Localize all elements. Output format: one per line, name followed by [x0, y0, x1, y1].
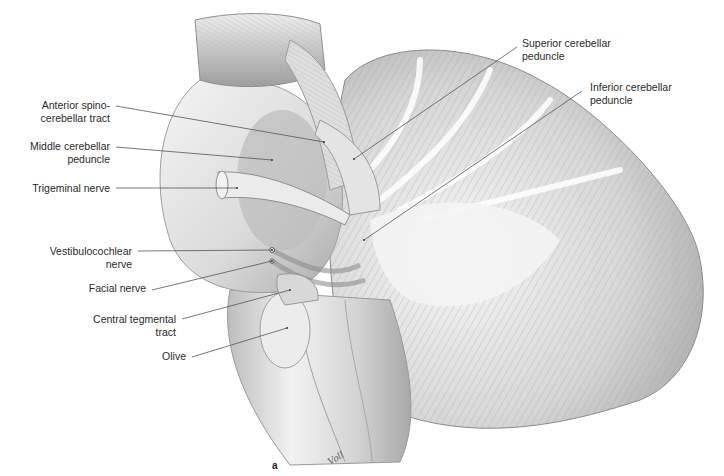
label-text-line: Trigeminal nerve: [32, 182, 110, 195]
label-facial-nerve: Facial nerve: [89, 282, 146, 295]
label-text-line: cerebellar tract: [41, 112, 110, 125]
leader-dot: [286, 327, 288, 329]
label-text-line: Vestibulocochlear: [50, 245, 132, 258]
anatomy-drawing: Voll: [0, 0, 724, 476]
label-olive: Olive: [162, 350, 186, 363]
label-text-line: Inferior cerebellar: [590, 81, 672, 94]
label-text-line: peduncle: [30, 153, 110, 166]
label-middle-cerebellar-peduncle: Middle cerebellarpeduncle: [30, 140, 110, 166]
label-text-line: Olive: [162, 350, 186, 363]
leader-dot: [323, 141, 325, 143]
brainstem: [228, 290, 411, 465]
label-trigeminal-nerve: Trigeminal nerve: [32, 182, 110, 195]
leader-dot: [353, 158, 355, 160]
label-superior-cerebellar-peduncle: Superior cerebellarpeduncle: [522, 37, 611, 63]
brainstem-cerebellum-illustration: Voll: [0, 0, 724, 476]
leader-dot: [271, 159, 273, 161]
label-vestibulocochlear-nerve: Vestibulocochlearnerve: [50, 245, 132, 271]
label-text-line: Facial nerve: [89, 282, 146, 295]
leader-dot: [289, 289, 291, 291]
leader-dot: [363, 239, 365, 241]
label-text-line: Middle cerebellar: [30, 140, 110, 153]
label-anterior-spinocerebellar-tract: Anterior spino-cerebellar tract: [41, 99, 110, 125]
label-text-line: tract: [93, 326, 176, 339]
label-inferior-cerebellar-peduncle: Inferior cerebellarpeduncle: [590, 81, 672, 107]
label-text-line: Superior cerebellar: [522, 37, 611, 50]
label-text-line: peduncle: [522, 50, 611, 63]
label-text-line: Central tegmental: [93, 313, 176, 326]
label-text-line: peduncle: [590, 94, 672, 107]
leader-dot: [236, 187, 238, 189]
panel-letter: a: [272, 460, 278, 471]
label-text-line: Anterior spino-: [41, 99, 110, 112]
leader-dot: [271, 249, 273, 251]
label-central-tegmental-tract: Central tegmentaltract: [93, 313, 176, 339]
label-text-line: nerve: [50, 258, 132, 271]
leader-dot: [271, 260, 273, 262]
